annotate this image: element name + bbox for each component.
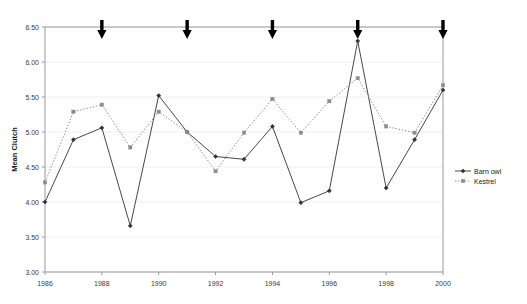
y-axis-tick-label: 6.50 (25, 24, 39, 31)
data-point-kestrel-2000 (441, 83, 444, 86)
y-axis-tick-label: 5.50 (25, 94, 39, 101)
legend-label-barn-owl: Barn owl (474, 168, 502, 175)
x-axis-tick-label: 2000 (435, 280, 451, 287)
x-axis-tick-label: 1996 (321, 280, 337, 287)
data-point-kestrel-1998 (384, 125, 387, 128)
data-point-barn-owl-1997 (356, 39, 360, 43)
data-point-kestrel-1992 (214, 170, 217, 173)
down-arrow-annotation-1997 (353, 20, 362, 39)
data-point-barn-owl-1999 (412, 138, 416, 142)
x-axis-tick-label: 1998 (378, 280, 394, 287)
y-axis-tick-label: 3.50 (25, 234, 39, 241)
x-axis-tick-label: 1986 (37, 280, 53, 287)
y-axis-tick-label: 4.50 (25, 164, 39, 171)
legend-label-kestrel: Kestrel (474, 178, 496, 185)
data-point-kestrel-1990 (157, 110, 160, 113)
data-point-kestrel-1993 (242, 131, 245, 134)
y-axis-tick-label: 3.00 (25, 269, 39, 276)
data-point-barn-owl-1995 (299, 201, 303, 205)
data-point-barn-owl-1987 (71, 138, 75, 142)
data-point-kestrel-1995 (299, 131, 302, 134)
data-point-barn-owl-1998 (384, 186, 388, 190)
y-axis-tick-label: 4.00 (25, 199, 39, 206)
data-point-barn-owl-1989 (128, 224, 132, 228)
down-arrow-annotation-1994 (268, 20, 277, 39)
x-axis-tick-label: 1988 (94, 280, 110, 287)
x-axis-tick-label: 1992 (208, 280, 224, 287)
legend-marker-barn-owl (461, 169, 465, 173)
y-axis-tick-label: 6.00 (25, 59, 39, 66)
data-point-kestrel-1987 (72, 110, 75, 113)
data-point-kestrel-1997 (356, 76, 359, 79)
data-point-kestrel-1989 (129, 146, 132, 149)
down-arrow-annotation-2000 (438, 20, 447, 39)
line-chart: 3.003.504.004.505.005.506.006.5019861988… (0, 0, 527, 304)
data-point-barn-owl-1996 (327, 189, 331, 193)
data-point-kestrel-1991 (185, 130, 188, 133)
legend-marker-kestrel (461, 179, 464, 182)
data-point-kestrel-1986 (43, 181, 46, 184)
data-point-kestrel-1996 (328, 100, 331, 103)
data-point-barn-owl-1988 (100, 126, 104, 130)
chart-container: 3.003.504.004.505.005.506.006.5019861988… (0, 0, 527, 304)
down-arrow-annotation-1991 (183, 20, 192, 39)
y-axis-tick-label: 5.00 (25, 129, 39, 136)
data-point-kestrel-1999 (413, 131, 416, 134)
data-point-barn-owl-1986 (43, 200, 47, 204)
down-arrow-annotation-1988 (97, 20, 106, 39)
x-axis-tick-label: 1994 (265, 280, 281, 287)
x-axis-tick-label: 1990 (151, 280, 167, 287)
data-point-kestrel-1994 (271, 97, 274, 100)
data-point-kestrel-1988 (100, 103, 103, 106)
y-axis-title: Mean Clutch (10, 127, 19, 172)
